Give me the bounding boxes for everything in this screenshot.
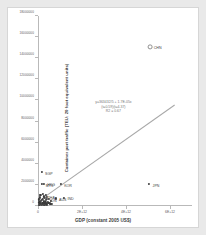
point-label: JPN — [153, 184, 160, 188]
y-tick-label: 10000000 — [19, 94, 34, 98]
y-tick-label: 16000000 — [19, 31, 34, 35]
point-label: CHN — [154, 46, 162, 50]
regression-r2: R2 = 0.67 — [95, 109, 131, 114]
y-tick-label: 4000000 — [21, 158, 34, 162]
x-tick-mark — [170, 206, 171, 209]
y-tick-label: 14000000 — [19, 52, 34, 56]
x-axis-line — [38, 205, 192, 206]
y-tick-mark — [35, 99, 38, 100]
y-tick-label: 0 — [32, 200, 34, 204]
point-label: SGP — [45, 172, 53, 176]
scatter-point — [40, 171, 42, 173]
point-label: IND — [67, 197, 73, 201]
y-tick-mark — [35, 142, 38, 143]
y-tick-mark — [35, 78, 38, 79]
scatter-point — [148, 44, 153, 49]
regression-annotation: y=363432/5 + 1.7E-05x (t=0.59)(t=4.37) R… — [95, 100, 131, 114]
y-tick-label: 6000000 — [21, 137, 34, 141]
y-tick-label: 18000000 — [19, 10, 34, 14]
scatter-point — [39, 194, 41, 196]
point-label: HKG — [47, 183, 55, 187]
point-label: KOR — [64, 184, 72, 188]
scatter-point — [148, 183, 150, 185]
x-tick-label: 6E+12 — [165, 210, 175, 214]
x-tick-label: 0 — [37, 210, 39, 214]
x-tick-mark — [126, 206, 127, 209]
y-tick-label: 12000000 — [19, 73, 34, 77]
y-tick-label: 8000000 — [21, 116, 34, 120]
y-tick-label: 2000000 — [21, 179, 34, 183]
x-tick-mark — [82, 206, 83, 209]
x-tick-mark — [38, 206, 39, 209]
y-tick-mark — [35, 57, 38, 58]
regression-equation: y=363432/5 + 1.7E-05x — [95, 100, 131, 105]
y-tick-mark — [35, 36, 38, 37]
x-axis-title: GDP (constant 2005 US$) — [8, 218, 198, 223]
y-tick-mark — [35, 15, 38, 16]
y-tick-mark — [35, 121, 38, 122]
scatter-point — [43, 183, 45, 185]
y-axis-line — [38, 16, 39, 206]
x-tick-label: 2E+12 — [77, 210, 87, 214]
y-tick-mark — [35, 184, 38, 185]
x-tick-label: 4E+12 — [121, 210, 131, 214]
point-label: AUS — [59, 198, 66, 202]
scatter-point — [46, 204, 48, 206]
chart-figure: Container port traffic (TEU: 20 foot equ… — [7, 7, 199, 228]
y-tick-mark — [35, 163, 38, 164]
plot-area: 0200000040000006000000800000010000000120… — [38, 16, 192, 206]
